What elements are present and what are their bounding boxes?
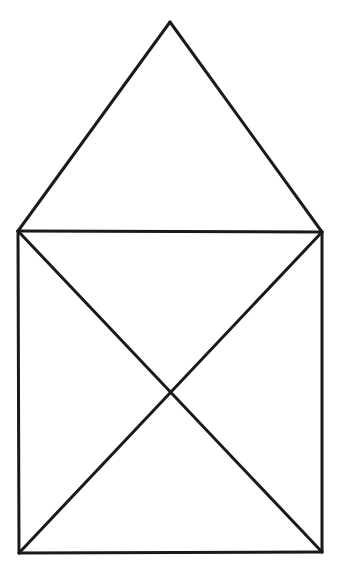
figure-canvas: Geometric Line Figure [0, 0, 349, 587]
square-bottom-edge [19, 552, 322, 553]
figure-background [0, 0, 349, 587]
geometric-figure [0, 0, 349, 587]
square-left-edge [18, 231, 19, 553]
square-top-edge [18, 231, 322, 232]
